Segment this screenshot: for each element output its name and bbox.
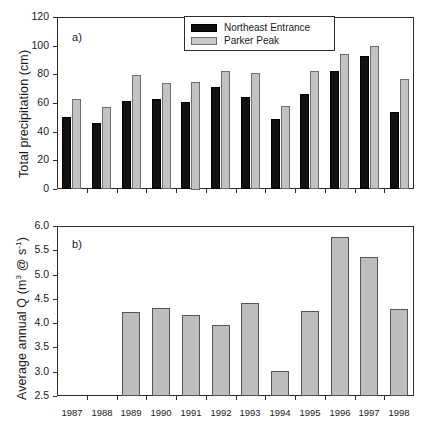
x-tick-mark — [236, 189, 237, 193]
bar-average-annual-q-1990 — [152, 308, 170, 396]
y-tick-mark — [53, 17, 57, 18]
x-tick-mark — [236, 396, 237, 400]
y-tick-label: 20 — [9, 153, 49, 165]
bar-parker-peak-1990 — [162, 83, 171, 189]
x-tick-mark — [325, 189, 326, 193]
y-tick-mark — [53, 372, 57, 373]
legend-item-parker-peak: Parker Peak — [191, 34, 327, 47]
y-tick-mark — [53, 250, 57, 251]
x-tick-mark — [206, 189, 207, 193]
x-tick-mark — [146, 189, 147, 193]
bar-northeast-entrance-1991 — [181, 102, 190, 189]
y-tick-label: 6.0 — [9, 219, 49, 231]
bar-average-annual-q-1989 — [122, 312, 140, 396]
y-tick-label: 4.0 — [9, 316, 49, 328]
bar-northeast-entrance-1993 — [241, 97, 250, 189]
y-tick-mark — [53, 160, 57, 161]
legend-swatch-parker-peak — [191, 37, 217, 45]
x-tick-mark — [265, 189, 266, 193]
x-tick-mark — [206, 396, 207, 400]
bar-average-annual-q-1994 — [271, 371, 289, 396]
x-tick-mark — [265, 396, 266, 400]
x-tick-mark — [295, 189, 296, 193]
y-tick-mark — [53, 347, 57, 348]
bar-parker-peak-1995 — [310, 71, 319, 189]
x-tick-mark — [325, 396, 326, 400]
bar-average-annual-q-1993 — [241, 303, 259, 396]
y-tick-label: 5.0 — [9, 268, 49, 280]
bar-northeast-entrance-1998 — [390, 112, 399, 189]
x-tick-mark — [87, 189, 88, 193]
y-tick-mark — [53, 226, 57, 227]
bar-parker-peak-1998 — [400, 79, 409, 189]
bar-parker-peak-1989 — [132, 75, 141, 189]
y-tick-mark — [53, 189, 57, 190]
y-tick-label: 3.0 — [9, 365, 49, 377]
x-tick-mark — [355, 396, 356, 400]
bar-northeast-entrance-1997 — [360, 56, 369, 189]
bar-parker-peak-1993 — [251, 73, 260, 189]
bar-parker-peak-1996 — [340, 54, 349, 189]
y-tick-label: 0 — [9, 182, 49, 194]
bar-average-annual-q-1996 — [331, 237, 349, 396]
bar-northeast-entrance-1996 — [330, 71, 339, 189]
x-tick-mark — [176, 396, 177, 400]
y-tick-mark — [53, 396, 57, 397]
y-tick-mark — [53, 299, 57, 300]
x-tick-mark — [384, 396, 385, 400]
y-tick-mark — [53, 46, 57, 47]
legend: Northeast Entrance Parker Peak — [184, 16, 335, 51]
x-tick-mark — [117, 396, 118, 400]
x-tick-mark — [87, 396, 88, 400]
y-tick-label: 40 — [9, 125, 49, 137]
y-tick-label: 100 — [9, 39, 49, 51]
bar-parker-peak-1997 — [370, 46, 379, 189]
bar-average-annual-q-1997 — [360, 257, 378, 396]
bar-northeast-entrance-1994 — [271, 119, 280, 189]
x-tick-mark — [117, 189, 118, 193]
legend-item-northeast-entrance: Northeast Entrance — [191, 21, 327, 34]
y-tick-label: 80 — [9, 67, 49, 79]
x-tick-mark — [295, 396, 296, 400]
bar-average-annual-q-1991 — [182, 315, 200, 396]
y-tick-mark — [53, 275, 57, 276]
y-tick-label: 2.5 — [9, 389, 49, 401]
y-tick-label: 60 — [9, 96, 49, 108]
x-tick-mark — [176, 189, 177, 193]
bar-average-annual-q-1995 — [301, 311, 319, 396]
y-tick-label: 5.5 — [9, 243, 49, 255]
panel-b-average-annual-discharge: b) Average annual Q (m3 @ s-1) 2.53.03.5… — [0, 210, 424, 434]
bar-average-annual-q-1992 — [212, 325, 230, 396]
bar-parker-peak-1987 — [72, 99, 81, 189]
bar-parker-peak-1991 — [191, 82, 200, 190]
bar-average-annual-q-1998 — [390, 309, 408, 396]
bar-northeast-entrance-1995 — [300, 94, 309, 189]
y-tick-mark — [53, 132, 57, 133]
bar-northeast-entrance-1990 — [152, 99, 161, 189]
legend-swatch-northeast-entrance — [191, 24, 217, 32]
bar-northeast-entrance-1992 — [211, 87, 220, 189]
legend-label-parker-peak: Parker Peak — [224, 35, 279, 46]
y-tick-label: 3.5 — [9, 340, 49, 352]
y-tick-mark — [53, 323, 57, 324]
x-tick-mark — [355, 189, 356, 193]
y-tick-label: 120 — [9, 10, 49, 22]
y-tick-label: 4.5 — [9, 292, 49, 304]
y-tick-mark — [53, 103, 57, 104]
bar-northeast-entrance-1989 — [122, 101, 131, 189]
panel-b-ylabel-close: ) — [15, 237, 29, 241]
panel-b-label: b) — [72, 238, 82, 250]
bar-northeast-entrance-1987 — [62, 117, 71, 189]
x-tick-mark — [384, 189, 385, 193]
legend-label-northeast-entrance: Northeast Entrance — [224, 22, 310, 33]
y-tick-mark — [53, 74, 57, 75]
bar-northeast-entrance-1988 — [92, 123, 101, 189]
x-tick-label-1998: 1998 — [379, 407, 419, 418]
precipitation-discharge-figure: a) Total precipitation (cm) 020406080100… — [0, 0, 424, 434]
bar-parker-peak-1994 — [281, 106, 290, 189]
bar-parker-peak-1988 — [102, 107, 111, 189]
bar-parker-peak-1992 — [221, 71, 230, 189]
panel-a-label: a) — [72, 31, 82, 43]
panel-a-total-precipitation: a) Total precipitation (cm) 020406080100… — [0, 0, 424, 210]
x-tick-mark — [146, 396, 147, 400]
